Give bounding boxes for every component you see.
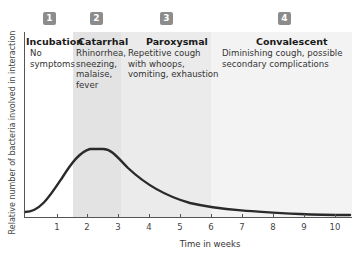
x-axis-label: Time in weeks (150, 239, 270, 249)
x-tick-10 (335, 214, 336, 218)
x-tick-3 (118, 214, 119, 218)
x-tick-9 (304, 214, 305, 218)
x-tick-label-5: 5 (173, 222, 187, 232)
x-tick-6 (211, 214, 212, 218)
y-axis-label: Relative number of bacteria involved in … (8, 13, 17, 253)
x-tick-label-8: 8 (266, 222, 280, 232)
x-tick-label-7: 7 (235, 222, 249, 232)
x-tick-label-4: 4 (142, 222, 156, 232)
x-tick-5 (180, 214, 181, 218)
pertussis-stages-diagram: 1 2 3 4 Incubation Catarrhal Paroxysmal … (0, 0, 363, 256)
x-tick-8 (273, 214, 274, 218)
x-axis (24, 217, 352, 218)
x-tick-label-6: 6 (204, 222, 218, 232)
x-tick-7 (242, 214, 243, 218)
x-tick-4 (149, 214, 150, 218)
y-axis (24, 32, 25, 218)
x-tick-label-1: 1 (50, 222, 64, 232)
x-tick-2 (87, 214, 88, 218)
x-tick-label-3: 3 (111, 222, 125, 232)
x-tick-1 (57, 214, 58, 218)
x-tick-label-2: 2 (80, 222, 94, 232)
x-tick-label-9: 9 (297, 222, 311, 232)
x-tick-label-10: 10 (328, 222, 342, 232)
